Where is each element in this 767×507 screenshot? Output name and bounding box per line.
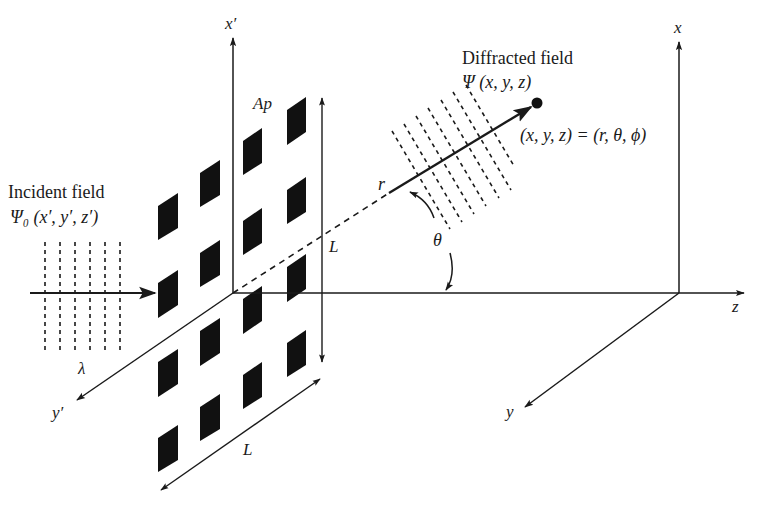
y-prime-label: y′ [50, 403, 64, 422]
diffracted-title: Diffracted field [462, 48, 573, 68]
z-label: z [731, 297, 739, 316]
diffracted-arrow [389, 107, 531, 193]
observation-point [532, 98, 543, 109]
incident-title: Incident field [8, 182, 104, 202]
theta-label: θ [433, 230, 442, 250]
l-horizontal-label: L [242, 440, 252, 459]
incident-expr: Ψ₀ (x′, y′, z′) [10, 207, 98, 228]
point-label: (x, y, z) = (r, θ, ϕ) [520, 125, 646, 146]
y-label: y [504, 402, 514, 421]
diffracted-expr: Ψ (x, y, z) [462, 72, 531, 93]
x-prime-label: x′ [224, 14, 237, 33]
wavelength-label: λ [77, 359, 85, 378]
x-label: x [673, 18, 682, 37]
diffracted-wavefronts [392, 85, 514, 229]
y-axis [525, 293, 679, 407]
aperture-grid [158, 97, 306, 472]
r-label: r [378, 174, 386, 194]
l-horizontal-dimension [161, 379, 320, 490]
incident-wavefronts [45, 242, 120, 350]
theta-arc-lower [446, 253, 452, 290]
l-vertical-label: L [328, 237, 338, 256]
diffraction-diagram: Incident field Ψ₀ (x′, y′, z′) λ Diffrac… [0, 0, 767, 507]
aperture-label: Ap [252, 94, 272, 113]
